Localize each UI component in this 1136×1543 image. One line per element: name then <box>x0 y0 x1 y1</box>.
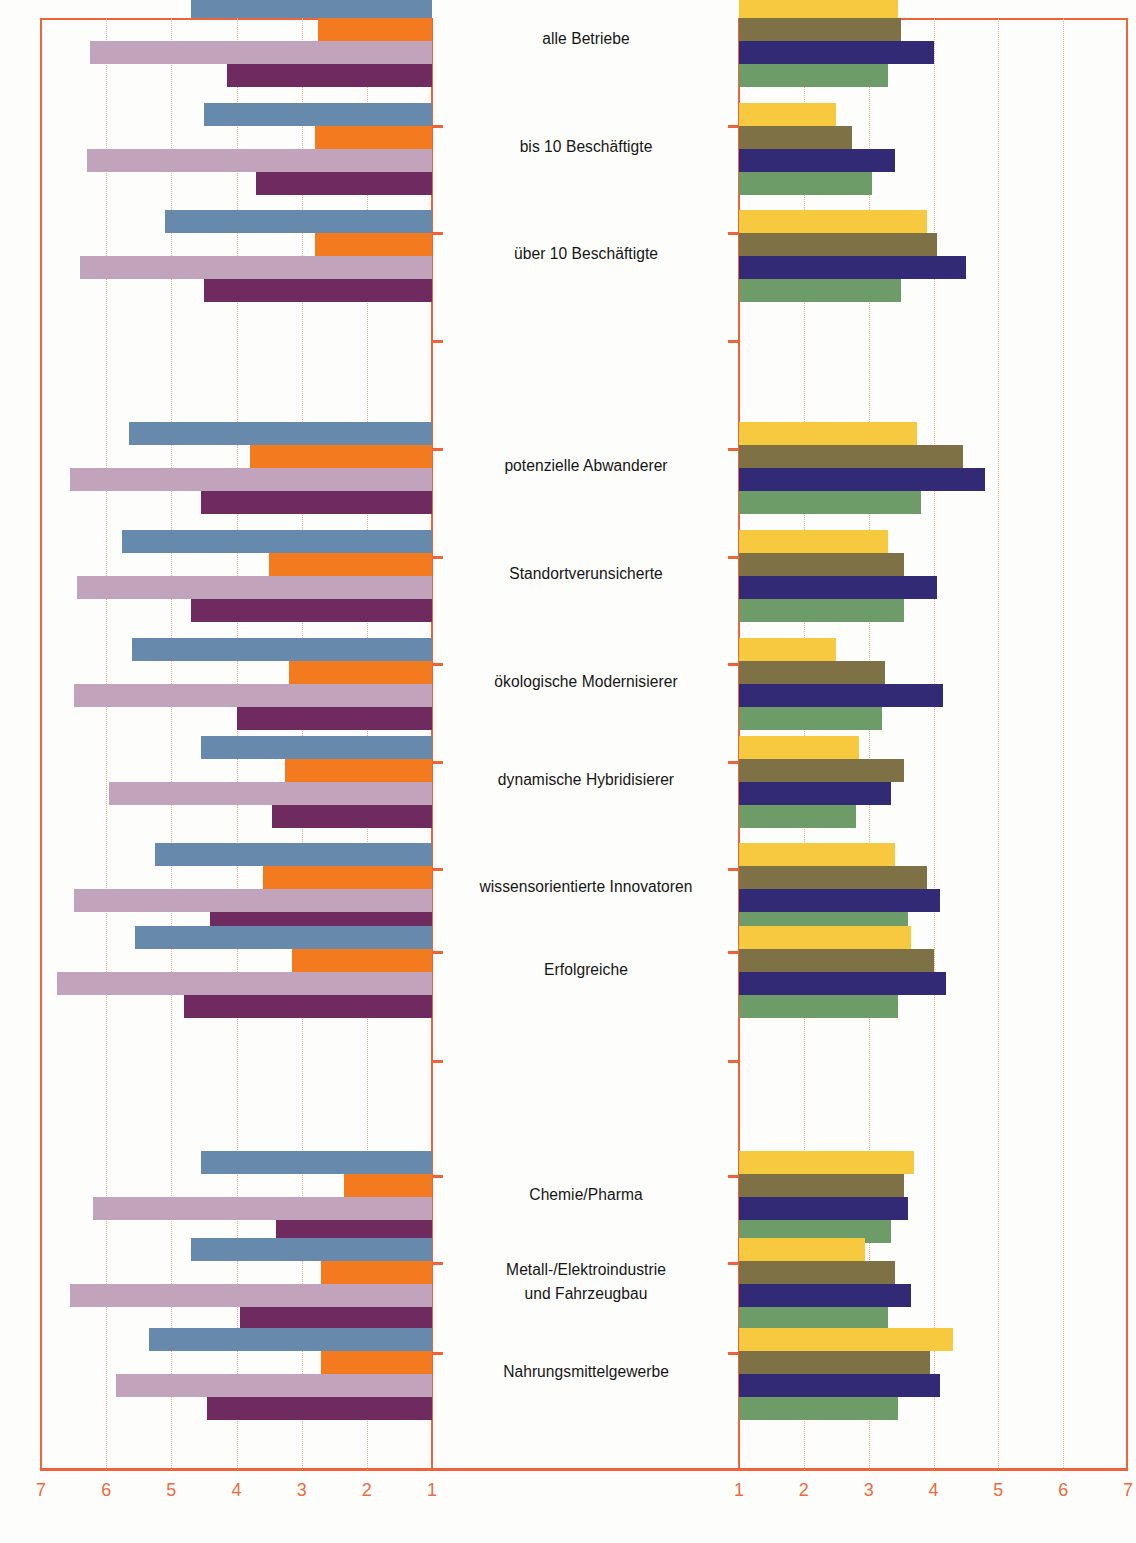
bar-right-green-g6 <box>739 805 856 828</box>
bar-left-light_mauve-g3 <box>70 468 432 491</box>
bar-left-blue-g9 <box>201 1151 432 1174</box>
bar-left-light_mauve-g7 <box>74 889 432 912</box>
bar-left-dark_purple-g1 <box>256 172 432 195</box>
bar-right-brown-g8 <box>739 949 934 972</box>
bar-left-orange-g5 <box>289 661 432 684</box>
bar-right-navy-g6 <box>739 782 891 805</box>
bar-left-light_mauve-g6 <box>109 782 432 805</box>
bar-left-dark_purple-g3 <box>201 491 432 514</box>
category-label-line: alle Betriebe <box>438 27 734 51</box>
bar-left-blue-g5 <box>132 638 432 661</box>
category-label-line: Nahrungsmittelgewerbe <box>438 1360 734 1384</box>
bar-right-brown-g7 <box>739 866 927 889</box>
tick-left-12 <box>431 1352 443 1355</box>
bar-right-brown-g4 <box>739 553 904 576</box>
bar-right-brown-g5 <box>739 661 885 684</box>
bar-left-orange-g11 <box>321 1351 432 1374</box>
tick-right-9 <box>728 1060 740 1063</box>
bar-left-light_mauve-g2 <box>80 256 432 279</box>
tick-left-10 <box>431 1175 443 1178</box>
bar-left-dark_purple-g5 <box>237 707 433 730</box>
category-label-3: potenzielle Abwanderer <box>438 454 734 478</box>
category-label-6: dynamische Hybridisierer <box>438 768 734 792</box>
tick-right-2 <box>728 340 740 343</box>
bar-left-orange-g9 <box>344 1174 432 1197</box>
bar-right-navy-g3 <box>739 468 985 491</box>
bar-right-navy-g4 <box>739 576 937 599</box>
axis-number-right-6: 6 <box>1048 1480 1078 1501</box>
bar-right-yellow-g11 <box>739 1328 953 1351</box>
bar-right-brown-g6 <box>739 759 904 782</box>
bar-left-light_mauve-g0 <box>90 41 432 64</box>
category-label-0: alle Betriebe <box>438 27 734 51</box>
bar-left-dark_purple-g10 <box>240 1307 432 1330</box>
axis-number-right-5: 5 <box>983 1480 1013 1501</box>
bar-right-yellow-g0 <box>739 0 898 18</box>
bar-left-orange-g2 <box>315 233 432 256</box>
bar-right-yellow-g7 <box>739 843 895 866</box>
bar-right-yellow-g4 <box>739 530 888 553</box>
bar-right-green-g3 <box>739 491 921 514</box>
bar-right-yellow-g8 <box>739 926 911 949</box>
bar-right-green-g4 <box>739 599 904 622</box>
bar-right-green-g2 <box>739 279 901 302</box>
bar-left-blue-g0 <box>191 0 432 18</box>
bar-left-orange-g0 <box>318 18 432 41</box>
tick-left-0 <box>431 125 443 128</box>
bar-right-brown-g2 <box>739 233 937 256</box>
axis-number-left-2: 2 <box>352 1480 382 1501</box>
tick-left-1 <box>431 232 443 235</box>
category-label-11: Nahrungsmittelgewerbe <box>438 1360 734 1384</box>
bar-left-light_mauve-g8 <box>57 972 432 995</box>
axis-number-left-7: 7 <box>26 1480 56 1501</box>
bar-right-brown-g9 <box>739 1174 904 1197</box>
bar-left-blue-g4 <box>122 530 432 553</box>
bar-right-brown-g1 <box>739 126 852 149</box>
bar-right-yellow-g10 <box>739 1238 865 1261</box>
bar-left-light_mauve-g4 <box>77 576 432 599</box>
bar-right-yellow-g5 <box>739 638 836 661</box>
category-label-5: ökologische Modernisierer <box>438 670 734 694</box>
bar-left-dark_purple-g6 <box>272 805 432 828</box>
bar-right-brown-g11 <box>739 1351 930 1374</box>
tick-left-3 <box>431 448 443 451</box>
category-label-line: über 10 Beschäftigte <box>438 242 734 266</box>
category-label-line: bis 10 Beschäftigte <box>438 135 734 159</box>
category-label-line: Metall-/Elektroindustrie <box>438 1258 734 1282</box>
bar-left-blue-g6 <box>201 736 432 759</box>
tick-left-6 <box>431 761 443 764</box>
bar-left-orange-g7 <box>263 866 432 889</box>
axis-number-left-6: 6 <box>91 1480 121 1501</box>
bar-left-orange-g4 <box>269 553 432 576</box>
chart-canvas: (Quellen: eigene Erhebungen) alle Betrie… <box>0 0 1136 1543</box>
gridline-left-5 <box>171 18 172 1470</box>
axis-number-right-3: 3 <box>854 1480 884 1501</box>
bar-right-green-g1 <box>739 172 872 195</box>
bar-right-green-g0 <box>739 64 888 87</box>
category-label-line: Chemie/Pharma <box>438 1183 734 1207</box>
gridline-right-5 <box>998 18 999 1470</box>
bar-right-navy-g9 <box>739 1197 908 1220</box>
bar-right-navy-g5 <box>739 684 943 707</box>
bar-right-brown-g10 <box>739 1261 895 1284</box>
bar-right-navy-g11 <box>739 1374 940 1397</box>
tick-left-2 <box>431 340 443 343</box>
bar-left-orange-g3 <box>250 445 432 468</box>
category-label-line: Erfolgreiche <box>438 958 734 982</box>
bar-right-green-g11 <box>739 1397 898 1420</box>
bar-left-light_mauve-g9 <box>93 1197 432 1220</box>
category-label-4: Standortverunsicherte <box>438 562 734 586</box>
category-label-line: ökologische Modernisierer <box>438 670 734 694</box>
category-label-line: potenzielle Abwanderer <box>438 454 734 478</box>
bar-left-blue-g3 <box>129 422 432 445</box>
axis-number-left-4: 4 <box>222 1480 252 1501</box>
bar-right-yellow-g1 <box>739 103 836 126</box>
axis-baseline <box>40 1468 1128 1471</box>
bar-left-blue-g2 <box>165 210 432 233</box>
bar-left-orange-g8 <box>292 949 432 972</box>
category-label-line: Standortverunsicherte <box>438 562 734 586</box>
bar-right-yellow-g9 <box>739 1151 914 1174</box>
bar-left-light_mauve-g5 <box>74 684 432 707</box>
axis-number-right-2: 2 <box>789 1480 819 1501</box>
bar-left-light_mauve-g1 <box>87 149 432 172</box>
